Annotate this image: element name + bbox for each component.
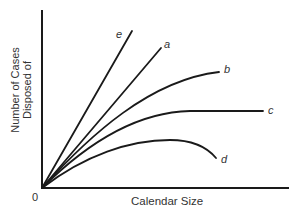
y-axis-label: Number of Cases Disposed of [9,40,33,140]
origin-label: 0 [32,192,38,203]
curve-label-d: d [221,154,227,165]
y-axis-label-line1: Number of Cases [9,40,21,140]
curve-label-e: e [116,29,122,40]
curve-e [42,31,132,188]
y-axis-label-line2: Disposed of [21,40,33,140]
curve-label-b: b [224,64,230,75]
curve-label-a: a [164,39,170,50]
x-axis-label: Calendar Size [131,196,203,208]
curve-label-c: c [268,105,274,116]
curve-a [42,48,161,188]
chart-canvas [0,0,305,214]
